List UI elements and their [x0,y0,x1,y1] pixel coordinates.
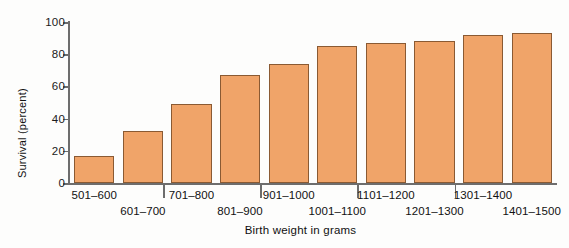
y-axis-tick-label: 20 [52,145,65,157]
x-axis-title: Birth weight in grams [0,224,569,236]
bar [123,131,163,183]
x-axis-line [68,183,557,185]
x-axis-tick-label: 1401–1500 [502,205,560,217]
x-axis-tick-label: 1201–1300 [405,205,463,217]
x-axis-tick-label: 501–600 [72,189,117,201]
y-axis-tick-label: 100 [45,16,65,28]
chart-figure: Survival (percent) 020406080100 501–6006… [0,0,569,248]
plot-area: 020406080100 [70,22,556,183]
x-axis-tick-label: 801–900 [217,205,262,217]
bar [512,33,552,183]
x-axis-tick-label: 1101–1200 [357,189,415,201]
bar [414,41,454,183]
x-axis-tick-mark [163,185,165,198]
bar [463,35,503,183]
bar [171,104,211,183]
bar [269,64,309,183]
bar [366,43,406,183]
y-axis-tick-label: 0 [58,177,65,189]
x-axis-tick-label: 901–1000 [263,189,315,201]
x-axis-tick-label: 701–800 [169,189,214,201]
x-axis-tick-mark [260,185,262,198]
y-axis-tick-label: 60 [52,80,65,92]
bar [74,156,114,183]
y-axis-tick-label: 40 [52,113,65,125]
y-axis-tick-label: 80 [52,48,65,60]
y-axis-title: Survival (percent) [16,164,28,178]
x-axis-tick-label: 1301–1400 [454,189,512,201]
bar [220,75,260,183]
bar [317,46,357,183]
x-axis-tick-label: 601–700 [120,205,165,217]
x-axis-tick-label: 1001–1100 [308,205,366,217]
